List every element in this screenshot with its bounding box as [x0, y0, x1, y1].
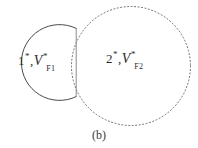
region-1-variable-subscript: F1 [46, 64, 55, 73]
region-1-separator: , [30, 53, 33, 68]
region-2-variable-subscript: F2 [134, 62, 143, 71]
region-1-label: 1*,V*F1 [18, 53, 56, 71]
region-2-variable-superscript: * [131, 49, 136, 59]
region-1-variable: V [34, 53, 43, 68]
figure-caption: (b) [0, 128, 198, 142]
region-2-variable: V [122, 51, 131, 66]
region-2-number-superscript: * [113, 49, 118, 59]
region-2-separator: , [118, 51, 121, 66]
two-region-circles-diagram [0, 0, 198, 148]
figure-container: 1*,V*F1 2*,V*F2 (b) [0, 0, 198, 148]
region-1-number-superscript: * [25, 51, 30, 61]
region-2-label: 2*,V*F2 [106, 51, 144, 69]
region-2-number: 2 [106, 51, 113, 66]
region-1-number: 1 [18, 53, 25, 68]
region-1-variable-superscript: * [43, 51, 48, 61]
